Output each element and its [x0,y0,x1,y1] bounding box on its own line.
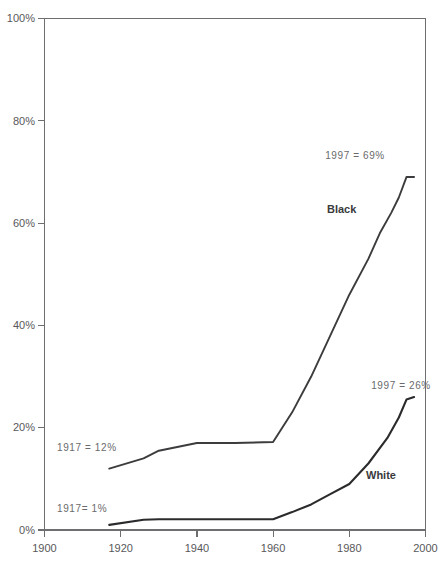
white-end-annotation: 1997 = 26% [371,380,431,391]
line-chart: 100% 80% 60% 40% 20% 0% 1900 1920 1940 1… [0,0,446,562]
series-line-white [109,397,414,525]
black-start-annotation: 1917 = 12% [57,442,117,453]
x-tick-label-1940: 1940 [185,542,209,554]
y-tick-label-80: 80% [13,115,35,127]
x-tick-label-1920: 1920 [108,542,132,554]
chart-page: 100% 80% 60% 40% 20% 0% 1900 1920 1940 1… [0,0,446,562]
x-axis-ticks [45,530,426,537]
y-axis-labels: 100% 80% 60% 40% 20% 0% [7,12,35,536]
white-start-annotation: 1917= 1% [57,503,107,514]
y-tick-label-60: 60% [13,217,35,229]
series-label-black: Black [327,203,357,215]
x-tick-label-1960: 1960 [261,542,285,554]
x-axis-labels: 1900 1920 1940 1960 1980 2000 [32,542,437,554]
plot-frame [45,19,426,531]
y-tick-label-40: 40% [13,319,35,331]
series-line-black [109,177,414,469]
black-end-annotation: 1997 = 69% [325,150,385,161]
x-tick-label-1980: 1980 [337,542,361,554]
series-label-white: White [366,469,396,481]
y-axis-ticks [38,19,45,531]
y-tick-label-100: 100% [7,12,35,24]
x-tick-label-1900: 1900 [32,542,56,554]
y-tick-label-0: 0% [19,524,35,536]
x-tick-label-2000: 2000 [413,542,437,554]
y-tick-label-20: 20% [13,421,35,433]
